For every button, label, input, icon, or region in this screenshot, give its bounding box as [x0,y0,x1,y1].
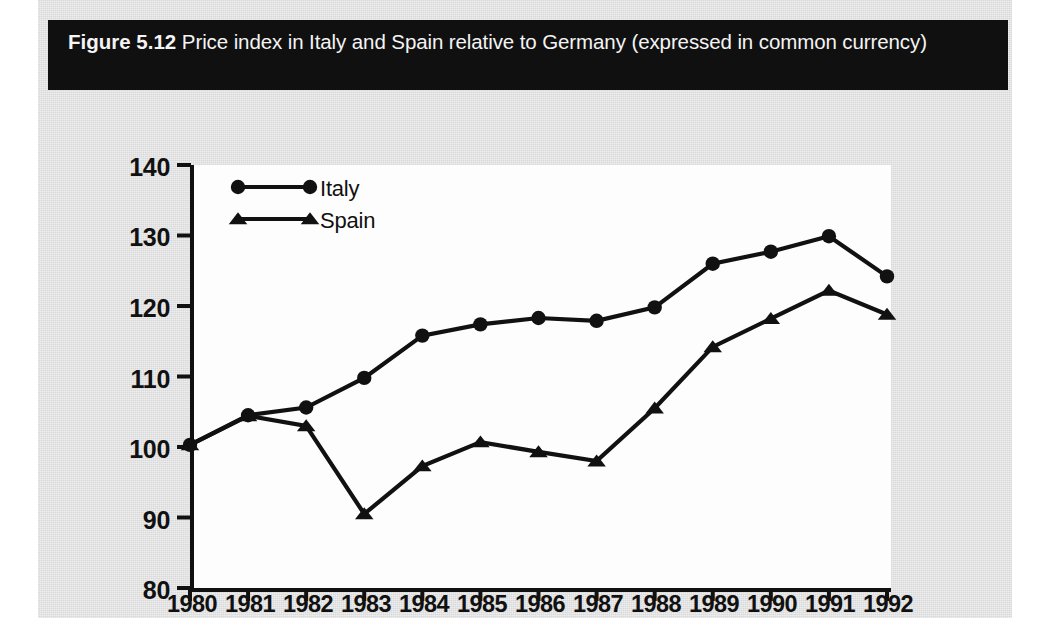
figure-caption-bar: Figure 5.12 Price index in Italy and Spa… [48,20,1008,90]
series-line-italy [190,236,887,445]
circle-marker [706,257,720,271]
y-tick-label-110: 110 [100,365,170,394]
circle-marker [531,311,545,325]
circle-marker [303,180,317,194]
y-tick-label-120: 120 [100,294,170,323]
circle-marker [299,400,313,414]
circle-marker [473,317,487,331]
y-tick-label-90: 90 [100,506,170,535]
circle-marker [880,269,894,283]
y-tick-label-100: 100 [100,435,170,464]
axis-tick-marks [177,165,887,601]
legend-markers [229,180,320,224]
y-tick-label-130: 130 [100,223,170,252]
figure-title: Price index in Italy and Spain relative … [182,30,927,53]
circle-marker [415,328,429,342]
plot-canvas [190,165,891,592]
data-series-group [181,229,897,519]
circle-marker [822,229,836,243]
circle-marker [231,180,245,194]
chart-area: 140 130 120 110 100 90 80 1980 1981 1982… [0,90,1059,618]
y-tick-label-140: 140 [100,153,170,182]
circle-marker [589,314,603,328]
figure-caption-text: Figure 5.12 Price index in Italy and Spa… [68,29,990,54]
figure-number: Figure 5.12 [68,30,176,53]
circle-marker [357,371,371,385]
triangle-marker [820,284,839,296]
circle-marker [764,245,778,259]
circle-marker [647,300,661,314]
figure-page: Figure 5.12 Price index in Italy and Spa… [0,0,1059,618]
